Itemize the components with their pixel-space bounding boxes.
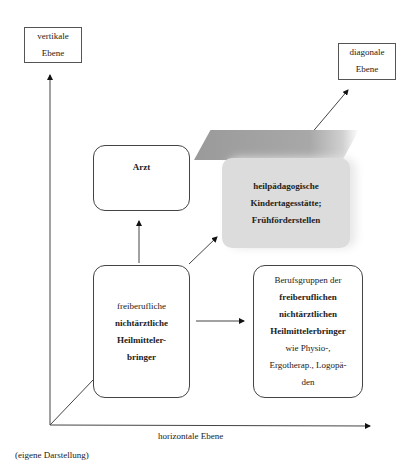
diagonal-axis-segment bbox=[50, 380, 93, 425]
arzt-box: Arzt bbox=[93, 145, 190, 211]
vertical-axis-label: vertikale Ebene bbox=[24, 27, 82, 63]
box-line: Heilmittelerbringer bbox=[270, 323, 345, 340]
horizontal-axis-label: horizontale Ebene bbox=[158, 431, 223, 441]
box-line: wie Physio-, bbox=[286, 340, 331, 357]
box-line: nichtärztliche bbox=[115, 315, 168, 332]
diagonal-axis-label: diagonale Ebene bbox=[338, 43, 396, 80]
box-line: freiberufliche bbox=[117, 298, 166, 315]
box-line: bringer bbox=[127, 349, 156, 366]
label-line: Ebene bbox=[339, 61, 395, 78]
box-line: den bbox=[302, 374, 315, 391]
box-line: heilpädagogische bbox=[253, 178, 319, 195]
arzt-label: Arzt bbox=[133, 159, 151, 176]
box-line: Frühförderstellen bbox=[252, 212, 320, 229]
label-line: diagonale bbox=[339, 44, 395, 61]
box-line: Berufsgruppen der bbox=[274, 272, 341, 289]
box-line: Kindertagesstätte; bbox=[251, 195, 322, 212]
box-line: freiberuflichen bbox=[279, 289, 336, 306]
label-line: Ebene bbox=[25, 45, 81, 62]
box-line: Heilmitteler- bbox=[117, 332, 166, 349]
arrow-to-heilpaedagogisch bbox=[189, 237, 217, 264]
heilpaedagogisch-box: heilpädagogische Kindertagesstätte; Früh… bbox=[222, 158, 350, 248]
arrow-to-diagonal-label bbox=[310, 90, 348, 135]
cube-top-face bbox=[194, 130, 359, 160]
caption: (eigene Darstellung) bbox=[15, 450, 89, 460]
center-box: freiberufliche nichtärztliche Heilmittel… bbox=[93, 265, 190, 398]
box-line: nichtärztlichen bbox=[279, 306, 337, 323]
horizontal-axis bbox=[50, 425, 370, 426]
berufsgruppen-box: Berufsgruppen der freiberuflichen nichtä… bbox=[253, 265, 363, 398]
label-line: vertikale bbox=[25, 28, 81, 45]
box-line: Ergotherap., Logopä- bbox=[269, 357, 346, 374]
